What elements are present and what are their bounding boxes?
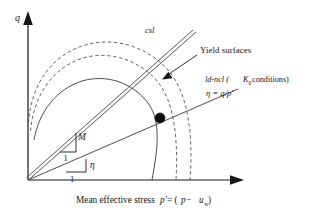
eta-unit-gradient-label: 1 [70,174,74,184]
x-axis-label-minus: − [186,195,191,205]
yield-surfaces-pointer [162,55,197,80]
yield-surfaces-group [29,42,191,180]
ld-ncl-line [28,89,238,180]
stress-state-dot [155,113,165,123]
x-axis-label-prefix: Mean effective stress [76,195,155,205]
csl-line-group [27,30,196,179]
ld-ncl-label-prefix: ld-ncl ( [205,75,230,84]
y-axis-arrowhead [23,11,33,25]
eta-gradient-triangle [66,159,86,172]
m-unit-gradient-label: 1 [64,153,68,163]
csl-label: csl [145,25,155,35]
yield-surface-outer-dashed [29,42,191,180]
yield-surfaces-label: Yield surfaces [200,45,252,55]
x-axis-arrowhead [230,175,244,185]
figure-container: q csl Yield surfaces ld-ncl ( K 0 condit… [0,0,318,214]
x-axis-label-group: Mean effective stress p' = ( p − u w ) [76,195,211,207]
y-axis-label: q [15,12,20,23]
yield-surface-inner-solid [34,79,157,180]
eta-definition-label: η = q/p' [206,88,233,98]
x-axis-label-equals: = ( [167,195,178,206]
csl-rail-upper [27,30,193,178]
ld-ncl-label-suffix: conditions) [252,75,289,84]
eta-symbol-label: η [90,160,95,170]
ld-ncl-label-group: ld-ncl ( K 0 conditions) [205,75,289,86]
csl-rail-lower [29,32,196,179]
x-axis-label-close: ) [208,195,211,206]
critical-state-yield-surface-diagram: q csl Yield surfaces ld-ncl ( K 0 condit… [0,0,318,214]
m-symbol-label: M [77,132,87,142]
